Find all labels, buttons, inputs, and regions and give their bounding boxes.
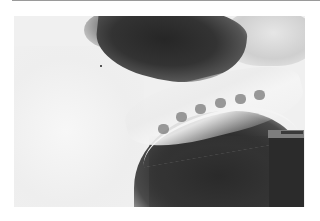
xray-image: [14, 16, 305, 207]
film-marker-block: [269, 138, 304, 207]
top-rule: [12, 0, 320, 1]
marker-label-text: [281, 131, 303, 134]
film-speck: [100, 65, 102, 67]
vertebra-space: [215, 98, 226, 108]
vertebra-space: [195, 104, 206, 114]
vertebra-space: [176, 112, 187, 122]
vertebra-space: [254, 90, 265, 100]
vertebra-space: [158, 124, 169, 134]
vertebra-space: [235, 94, 246, 104]
soft-tissue-left: [14, 46, 144, 207]
